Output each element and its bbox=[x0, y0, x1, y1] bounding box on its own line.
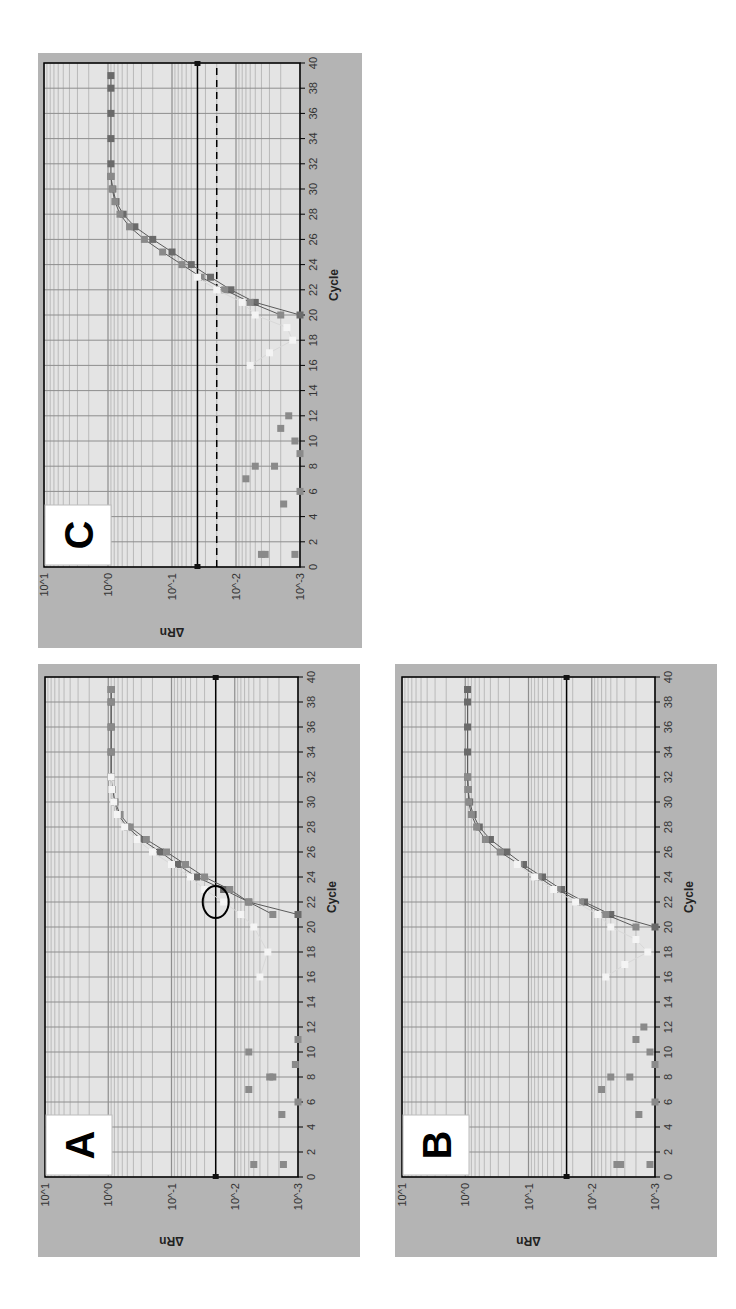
x-tick-label: 22 bbox=[307, 284, 319, 296]
x-tick-label: 34 bbox=[305, 746, 317, 758]
x-tick-label: 18 bbox=[305, 946, 317, 958]
data-point bbox=[464, 724, 471, 731]
data-point bbox=[646, 1049, 653, 1056]
x-tick-label: 16 bbox=[307, 359, 319, 371]
x-tick-label: 0 bbox=[662, 1174, 674, 1180]
y-tick-label: 10^0 bbox=[459, 1183, 471, 1207]
x-tick-label: 32 bbox=[662, 771, 674, 783]
data-point bbox=[247, 299, 254, 306]
data-point bbox=[178, 261, 185, 268]
data-point bbox=[464, 749, 471, 756]
chart-panel-a: 0246810121416182022242628303234363840Cyc… bbox=[38, 664, 360, 1257]
x-tick-label: 28 bbox=[305, 821, 317, 833]
x-tick-label: 14 bbox=[305, 996, 317, 1008]
data-point bbox=[250, 1161, 257, 1168]
x-tick-label: 12 bbox=[305, 1021, 317, 1033]
data-point bbox=[108, 686, 115, 693]
x-tick-label: 0 bbox=[305, 1174, 317, 1180]
data-point bbox=[632, 936, 639, 943]
data-point bbox=[644, 949, 651, 956]
x-tick-label: 2 bbox=[305, 1149, 317, 1155]
data-point bbox=[292, 1061, 299, 1068]
data-point bbox=[110, 799, 117, 806]
data-point bbox=[607, 924, 614, 931]
data-point bbox=[482, 836, 489, 843]
y-tick-label: 10^-3 bbox=[649, 1183, 661, 1210]
x-tick-label: 40 bbox=[662, 671, 674, 683]
data-point bbox=[111, 198, 118, 205]
x-tick-label: 36 bbox=[307, 107, 319, 119]
data-point bbox=[107, 160, 114, 167]
data-point bbox=[107, 173, 114, 180]
data-point bbox=[297, 488, 304, 495]
data-point bbox=[194, 274, 201, 281]
data-point bbox=[550, 886, 557, 893]
data-point bbox=[464, 686, 471, 693]
data-point bbox=[289, 337, 296, 344]
x-tick-label: 24 bbox=[307, 258, 319, 270]
x-tick-label: 8 bbox=[305, 1074, 317, 1080]
x-tick-label: 10 bbox=[662, 1046, 674, 1058]
chart-panel-c: 0246810121416182022242628303234363840Cyc… bbox=[38, 53, 362, 648]
data-point bbox=[126, 223, 133, 230]
data-point bbox=[169, 249, 176, 256]
x-axis-label: Cycle bbox=[682, 881, 696, 913]
y-tick-label: 10^-1 bbox=[523, 1183, 535, 1210]
x-tick-label: 14 bbox=[307, 384, 319, 396]
data-point bbox=[277, 425, 284, 432]
data-point bbox=[245, 1049, 252, 1056]
data-point bbox=[242, 475, 249, 482]
data-point bbox=[572, 899, 579, 906]
x-tick-label: 4 bbox=[662, 1124, 674, 1130]
x-tick-label: 20 bbox=[662, 921, 674, 933]
x-tick-label: 20 bbox=[307, 309, 319, 321]
x-tick-label: 38 bbox=[662, 696, 674, 708]
data-point bbox=[256, 974, 263, 981]
data-point bbox=[602, 974, 609, 981]
data-point bbox=[134, 836, 141, 843]
y-tick-label: 10^-3 bbox=[294, 573, 306, 600]
x-tick-label: 28 bbox=[662, 821, 674, 833]
x-tick-label: 26 bbox=[305, 846, 317, 858]
data-point bbox=[473, 824, 480, 831]
x-tick-label: 22 bbox=[662, 896, 674, 908]
data-point bbox=[149, 849, 156, 856]
x-tick-label: 40 bbox=[305, 671, 317, 683]
x-tick-label: 36 bbox=[662, 721, 674, 733]
x-tick-label: 40 bbox=[307, 57, 319, 69]
data-point bbox=[108, 724, 115, 731]
x-tick-label: 8 bbox=[662, 1074, 674, 1080]
data-point bbox=[465, 799, 472, 806]
x-tick-label: 36 bbox=[305, 721, 317, 733]
y-tick-label: 10^-2 bbox=[230, 573, 242, 600]
data-point bbox=[465, 786, 472, 793]
x-tick-label: 28 bbox=[307, 208, 319, 220]
y-tick-label: 10^0 bbox=[102, 1183, 114, 1207]
data-point bbox=[262, 551, 269, 558]
data-point bbox=[632, 1036, 639, 1043]
data-point bbox=[168, 861, 175, 868]
y-tick-label: 10^-2 bbox=[229, 1183, 241, 1210]
data-point bbox=[264, 949, 271, 956]
data-point bbox=[193, 874, 200, 881]
data-point bbox=[182, 861, 189, 868]
y-tick-label: 10^1 bbox=[39, 1183, 51, 1207]
y-tick-label: 10^-1 bbox=[166, 1183, 178, 1210]
x-tick-label: 2 bbox=[307, 539, 319, 545]
data-point bbox=[149, 236, 156, 243]
data-point bbox=[602, 911, 609, 918]
data-point bbox=[626, 1074, 633, 1081]
x-tick-label: 38 bbox=[305, 696, 317, 708]
x-tick-label: 6 bbox=[305, 1099, 317, 1105]
data-point bbox=[252, 312, 259, 319]
data-point bbox=[237, 911, 244, 918]
x-tick-label: 30 bbox=[307, 183, 319, 195]
data-point bbox=[297, 450, 304, 457]
x-tick-label: 32 bbox=[305, 771, 317, 783]
data-point bbox=[159, 249, 166, 256]
data-point bbox=[646, 1161, 653, 1168]
data-point bbox=[109, 186, 116, 193]
x-tick-label: 24 bbox=[662, 871, 674, 883]
data-point bbox=[245, 1086, 252, 1093]
x-tick-label: 6 bbox=[662, 1099, 674, 1105]
